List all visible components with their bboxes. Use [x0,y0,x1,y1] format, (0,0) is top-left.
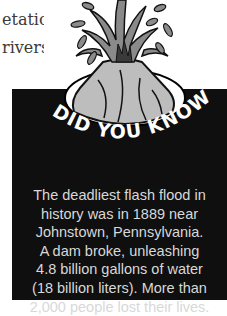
fact-line: history was in 1889 near [12,205,227,224]
did-you-know-text: The deadliest flash flood in history was… [12,186,227,316]
fact-line: 4.8 billion gallons of water [12,260,227,279]
fact-line: 2,000 people lost their lives. [12,298,227,316]
fact-line: Johnstown, Pennsylvania. [12,223,227,242]
fact-line: (18 billion liters). More than [12,279,227,298]
fact-line: A dam broke, unleashing [12,242,227,261]
fact-line: The deadliest flash flood in [12,186,227,205]
